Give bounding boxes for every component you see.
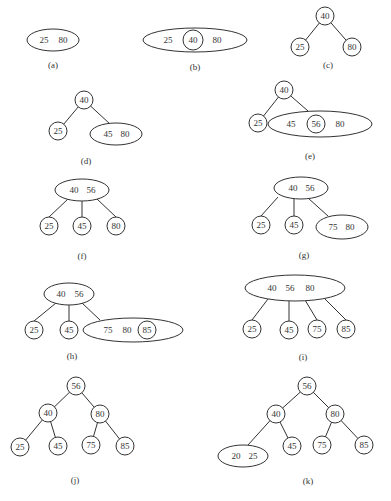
tree-node-circle: 56	[298, 377, 316, 395]
panel-f: 4056254580(f)	[40, 179, 125, 261]
tree-node-circle: 75	[308, 320, 326, 338]
panel-d: 40254580(d)	[49, 91, 142, 166]
tree-node-circle: 40	[39, 404, 57, 422]
panel-caption: (g)	[299, 250, 310, 260]
tree-node-circle: 45	[285, 216, 303, 234]
node-key: 25	[45, 221, 55, 231]
node-key: 40	[289, 183, 299, 193]
tree-node-circle: 25	[249, 114, 267, 132]
panel-caption: (a)	[48, 60, 58, 70]
node-key: 25	[248, 324, 258, 334]
node-key: 80	[348, 42, 358, 52]
panel-caption: (f)	[78, 251, 87, 261]
tree-edge	[305, 300, 317, 320]
node-key: 45	[287, 119, 297, 129]
tree-insertion-diagram: 2580(a)258040(b)402580(c)40254580(d)4025…	[0, 0, 391, 501]
tree-edge	[261, 197, 278, 216]
tree-node-circle: 75	[82, 436, 100, 454]
node-key: 45	[285, 325, 295, 335]
node-key: 80	[346, 222, 356, 232]
node-key: 75	[313, 324, 323, 334]
tree-edge	[252, 299, 268, 320]
node-key: 80	[96, 409, 106, 419]
node-key: 56	[303, 381, 313, 391]
tree-node-ellipse: 405680	[245, 275, 345, 301]
tree-node-circle: 85	[138, 321, 156, 339]
node-key: 40	[189, 35, 199, 45]
tree-node-circle: 45	[280, 321, 298, 339]
tree-node-circle: 25	[291, 38, 309, 56]
node-key: 80	[112, 221, 122, 231]
node-key: 75	[318, 440, 328, 450]
panel-b: 258040(b)	[143, 28, 247, 72]
node-key: 25	[40, 35, 50, 45]
panel-e: 4025458056(e)	[249, 81, 372, 161]
panel-j: 56408025457585(j)	[11, 377, 134, 485]
tree-node-circle: 45	[283, 437, 301, 455]
tree-node-circle: 25	[252, 216, 270, 234]
node-key: 80	[306, 283, 316, 293]
tree-node-ellipse: 4056	[44, 283, 94, 305]
tree-node-circle: 80	[91, 405, 109, 423]
tree-node-circle: 40	[75, 91, 93, 109]
panel-k: 5640802025457585(k)	[218, 377, 373, 486]
node-key: 56	[87, 185, 97, 195]
tree-node-circle: 40	[275, 81, 293, 99]
tree-edge	[49, 199, 68, 217]
panel-caption: (c)	[323, 60, 333, 70]
tree-node-ellipse: 2580	[27, 29, 79, 51]
panel-i: 40568025457585(i)	[243, 275, 355, 362]
node-key: 85	[360, 440, 370, 450]
node-key: 45	[288, 441, 298, 451]
tree-node-circle: 80	[326, 405, 344, 423]
node-key: 45	[65, 325, 75, 335]
panel-c: 402580(c)	[291, 7, 361, 70]
node-key: 25	[257, 220, 267, 230]
tree-node-circle: 25	[11, 438, 29, 456]
tree-node-ellipse: 7580	[83, 318, 183, 342]
tree-node-ellipse: 4580	[90, 123, 142, 145]
tree-node-circle: 25	[243, 320, 261, 338]
node-key: 40	[321, 11, 331, 21]
node-key: 25	[54, 126, 64, 136]
tree-node-circle: 40	[183, 30, 203, 50]
tree-node-circle: 80	[343, 38, 361, 56]
node-key: 40	[272, 409, 282, 419]
tree-node-circle: 85	[337, 320, 355, 338]
tree-node-ellipse: 7580	[316, 215, 368, 239]
node-key: 25	[296, 42, 306, 52]
node-key: 56	[312, 119, 322, 129]
node-key: 85	[121, 441, 131, 451]
tree-node-circle: 40	[316, 7, 334, 25]
tree-node-circle: 45	[49, 437, 67, 455]
node-key: 20	[232, 451, 242, 461]
node-key: 80	[123, 325, 133, 335]
node-key: 45	[290, 220, 300, 230]
tree-edge	[324, 298, 346, 320]
node-key: 40	[70, 185, 80, 195]
node-key: 85	[143, 325, 153, 335]
node-key: 25	[249, 451, 259, 461]
node-key: 25	[16, 442, 26, 452]
node-key: 45	[104, 129, 114, 139]
tree-edge	[82, 303, 100, 320]
panel-h: 40562545758085(h)	[25, 283, 183, 361]
panel-caption: (j)	[71, 475, 80, 485]
node-key: 40	[280, 85, 290, 95]
tree-node-circle: 85	[355, 436, 373, 454]
panel-caption: (b)	[190, 62, 201, 72]
panel-caption: (e)	[305, 151, 315, 161]
node-key: 85	[342, 324, 352, 334]
node-key: 56	[286, 283, 296, 293]
tree-node-circle: 85	[116, 437, 134, 455]
tree-edge	[308, 198, 328, 216]
tree-node-ellipse: 4056	[274, 177, 328, 199]
node-key: 56	[75, 289, 85, 299]
panel-g: 405625457580(g)	[252, 177, 368, 260]
panel-caption: (k)	[303, 476, 314, 486]
node-key: 40	[57, 289, 67, 299]
node-key: 56	[306, 183, 316, 193]
node-key: 80	[336, 119, 346, 129]
node-key: 40	[80, 95, 90, 105]
tree-node-ellipse: 4056	[55, 179, 109, 201]
